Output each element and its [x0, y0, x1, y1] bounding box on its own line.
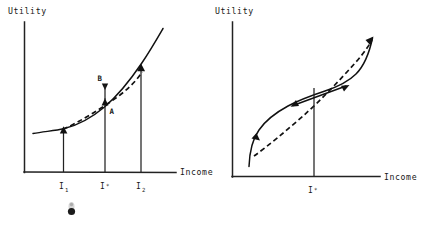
right-panel: Utility Income I *: [215, 6, 417, 195]
scan-artifact-blob: [68, 202, 75, 215]
right-crossing-segment: [293, 86, 346, 106]
left-xtick-i1: I 1: [59, 182, 68, 193]
left-xtick-istar: I *: [100, 182, 109, 191]
right-arrow-lower-left: [252, 133, 261, 141]
left-point-b-label: B: [98, 74, 103, 83]
left-xtick-istar-base: I: [100, 182, 105, 191]
figure-root: Utility Income B A I: [0, 0, 421, 230]
left-y-axis-label: Utility: [8, 6, 47, 16]
right-xtick-istar-base: I: [308, 186, 313, 195]
left-panel: Utility Income B A I: [8, 6, 213, 215]
left-xtick-i2: I 2: [136, 182, 145, 193]
left-xtick-i1-base: I: [59, 182, 64, 191]
right-xtick-istar: I *: [308, 186, 317, 195]
left-x-axis: [24, 172, 176, 173]
left-point-a-label: A: [110, 107, 115, 116]
right-arrow-mid-right: [341, 85, 350, 92]
utility-income-figure: Utility Income B A I: [0, 0, 421, 230]
left-x-axis-label: Income: [180, 167, 213, 177]
left-xtick-i1-subscript: 1: [65, 187, 68, 193]
left-xtick-i2-subscript: 2: [142, 187, 145, 193]
right-xtick-istar-star: *: [314, 187, 317, 193]
right-x-axis-label: Income: [384, 172, 417, 182]
left-marker-a: [102, 98, 109, 105]
right-y-axis-label: Utility: [215, 6, 254, 16]
left-xtick-istar-star: *: [106, 183, 109, 189]
left-xtick-i2-base: I: [136, 182, 141, 191]
left-chord-dashed: [63, 72, 142, 130]
right-utility-curve: [249, 38, 373, 167]
